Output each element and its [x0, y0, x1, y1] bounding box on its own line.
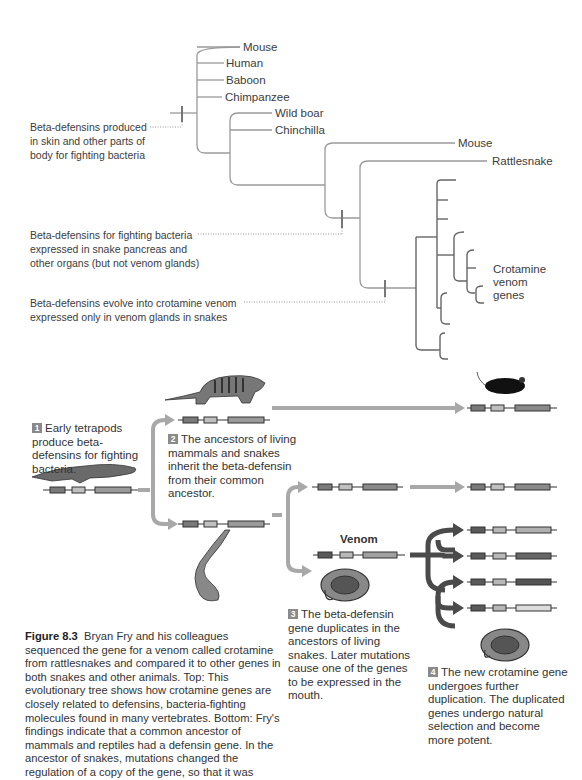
step-badge-1: 1: [32, 423, 42, 433]
leaf-chinchilla: Chinchilla: [275, 123, 325, 137]
mammal-ancestor-illustration: [165, 376, 265, 404]
step-3: 3The beta-defensin gene duplicates in th…: [288, 608, 420, 703]
crotamine-label: Crotamine venom genes: [493, 263, 546, 302]
step-badge-2: 2: [168, 434, 178, 444]
step-1: 1Early tetrapods produce beta-defensins …: [32, 422, 147, 476]
rattlesnake-illustration-1: [321, 569, 369, 601]
annotation-pancreas-defensins: Beta-defensins for fighting bacteria exp…: [30, 228, 199, 270]
leaf-baboon: Baboon: [226, 73, 266, 87]
annotation-crotamine-evolution: Beta-defensins evolve into crotamine ven…: [30, 296, 237, 324]
leaf-human: Human: [226, 56, 263, 70]
gene-snake-defensin-1: [312, 484, 403, 490]
venom-label: Venom: [340, 533, 378, 545]
leaf-mouse: Mouse: [243, 40, 278, 54]
gene-mouse: [467, 405, 557, 411]
step-4: 4The new crotamine gene undergoes furthe…: [428, 666, 568, 747]
lizard-illustration: [195, 530, 230, 601]
gene-crotamine-3: [467, 579, 557, 585]
gene-mammal-ancestor: [178, 417, 270, 423]
gene-tetrapod: [43, 487, 138, 493]
gene-snake-defensin-2: [467, 484, 557, 490]
gene-crotamine-2: [467, 553, 557, 559]
leaf-rattlesnake: Rattlesnake: [492, 154, 553, 168]
rattlesnake-illustration-2: [481, 629, 529, 661]
mouse-illustration: [477, 372, 525, 394]
step-badge-4: 4: [428, 667, 438, 677]
leaf-wild-boar: Wild boar: [275, 106, 324, 120]
step-badge-3: 3: [288, 609, 298, 619]
crotamine-subtree: [416, 180, 484, 359]
gene-venom: [313, 552, 405, 558]
gene-crotamine-1: [467, 527, 557, 533]
gene-crotamine-4: [467, 605, 557, 611]
step-2: 2The ancestors of living mammals and sna…: [168, 433, 303, 501]
gene-reptile-ancestor: [178, 521, 270, 527]
figure-number: Figure 8.3: [25, 630, 78, 642]
leaf-mouse-2: Mouse: [458, 136, 493, 150]
annotation-skin-defensins: Beta-defensins produced in skin and othe…: [30, 120, 147, 162]
arrowheads-dark: [453, 523, 464, 615]
leaf-chimpanzee: Chimpanzee: [225, 90, 290, 104]
figure-caption: Figure 8.3 Bryan Fry and his colleagues …: [25, 630, 283, 780]
